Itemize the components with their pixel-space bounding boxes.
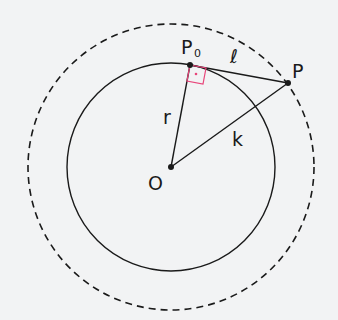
label-k: k — [232, 128, 243, 150]
segment-k — [171, 83, 288, 167]
point-P — [285, 80, 291, 86]
label-ell: ℓ — [229, 45, 238, 67]
label-P: P — [292, 60, 303, 82]
point-O — [168, 164, 174, 170]
right-angle-dot — [195, 73, 198, 76]
point-P0 — [187, 62, 193, 68]
label-P0-subscript: 0 — [194, 47, 201, 60]
diagram-svg: P 0 ℓ P r k O — [0, 0, 338, 320]
label-r: r — [163, 106, 171, 128]
label-O: O — [148, 172, 163, 194]
label-P0: P — [181, 36, 192, 58]
tangent-diagram: P 0 ℓ P r k O — [0, 0, 338, 320]
